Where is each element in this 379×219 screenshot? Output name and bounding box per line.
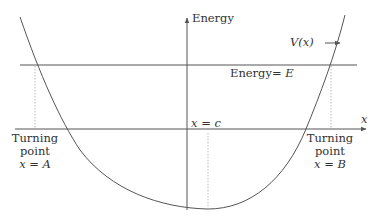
turning-point-a-label: Turning point x = A bbox=[5, 132, 65, 171]
turning-point-a-line3: x = A bbox=[5, 158, 65, 171]
turning-point-b-line3: x = B bbox=[300, 158, 360, 171]
y-axis-label: Energy bbox=[192, 13, 234, 25]
x-axis-label: x bbox=[361, 114, 368, 126]
potential-label: V(x) bbox=[290, 37, 314, 49]
energy-line-label: Energy= E bbox=[230, 68, 294, 80]
turning-point-b-label: Turning point x = B bbox=[300, 132, 360, 171]
energy-line-label-prefix: Energy= bbox=[230, 66, 285, 80]
energy-symbol: E bbox=[285, 66, 293, 80]
potential-well-diagram bbox=[0, 0, 379, 219]
center-label: x = c bbox=[191, 118, 221, 130]
